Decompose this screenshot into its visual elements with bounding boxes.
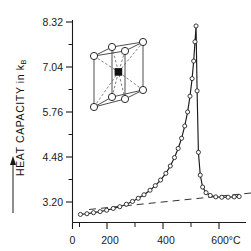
data-point	[193, 40, 197, 44]
data-point	[198, 173, 202, 177]
data-point	[183, 124, 187, 128]
data-point	[130, 199, 134, 203]
data-point	[201, 185, 205, 189]
data-point	[153, 184, 157, 188]
data-point	[220, 195, 224, 199]
x-axis-major-ticks	[73, 223, 220, 230]
data-point	[186, 110, 190, 114]
data-point	[124, 202, 128, 206]
x-axis-tick-labels: 0 200 400 600°C	[70, 234, 241, 246]
x-tick-label: 0	[70, 234, 76, 246]
data-point	[232, 195, 236, 199]
y-axis-tick-labels: 8.32 7.04 5.76 4.48 3.20	[43, 16, 64, 208]
bcc-unit-cell-inset	[90, 38, 146, 110]
data-point	[91, 211, 95, 215]
data-point	[176, 146, 180, 150]
data-point	[85, 212, 89, 216]
x-tick-label: 200	[101, 234, 119, 246]
data-point	[118, 205, 122, 209]
y-axis-major-ticks	[66, 22, 73, 202]
data-point	[180, 136, 184, 140]
y-tick-label: 8.32	[43, 16, 64, 28]
data-point	[196, 150, 200, 154]
y-tick-label: 3.20	[43, 196, 64, 208]
data-point	[98, 210, 102, 214]
data-point	[214, 195, 218, 199]
data-point	[142, 193, 146, 197]
data-point	[159, 178, 163, 182]
plot-area: 8.32 7.04 5.76 4.48 3.20 0 200 400 600°C	[0, 0, 251, 251]
x-tick-label: 600°C	[211, 234, 241, 246]
data-point	[190, 77, 194, 81]
data-point	[226, 195, 230, 199]
data-point	[204, 191, 208, 195]
data-point	[237, 194, 241, 198]
y-tick-label: 4.48	[43, 151, 64, 163]
data-point	[192, 59, 196, 63]
x-tick-label: 400	[157, 234, 175, 246]
data-point	[208, 193, 212, 197]
x-axis-minor-ticks	[80, 223, 192, 228]
data-point	[164, 171, 168, 175]
data-point	[168, 164, 172, 168]
center-atom	[115, 68, 123, 76]
data-point	[111, 206, 115, 210]
data-point-markers	[78, 24, 241, 217]
data-point	[148, 188, 152, 192]
y-tick-label: 5.76	[43, 106, 64, 118]
y-axis-arrow-icon	[10, 156, 16, 213]
axis-lines	[73, 20, 247, 223]
data-point	[136, 196, 140, 200]
data-point	[195, 89, 199, 93]
data-point	[78, 212, 82, 216]
data-point	[188, 94, 192, 98]
data-point	[194, 24, 198, 28]
figure-container: HEAT CAPACITY in kB 8.32	[0, 0, 251, 251]
data-point	[105, 208, 109, 212]
y-tick-label: 7.04	[43, 61, 64, 73]
data-point	[172, 156, 176, 160]
